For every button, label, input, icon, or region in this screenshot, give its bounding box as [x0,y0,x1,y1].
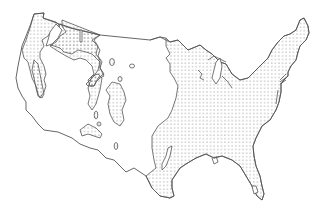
basin-patch-5 [97,122,101,126]
us-forest-map [0,0,328,216]
basin-patch-6 [114,143,118,150]
basin-patch-3 [118,77,122,82]
basin-patch-4 [94,111,98,119]
montana-clearing [80,30,82,42]
basin-patch-2 [130,64,135,68]
basin-patch-1 [110,59,115,66]
